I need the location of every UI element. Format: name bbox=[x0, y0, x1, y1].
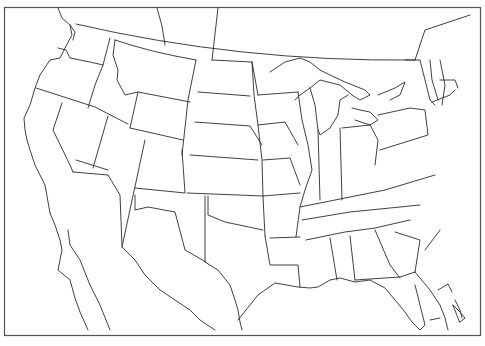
state-borders-central bbox=[258, 92, 312, 287]
west-coast bbox=[24, 8, 75, 213]
state-borders-plains bbox=[135, 60, 265, 262]
outline-map: Blank outline map of the contiguous Unit… bbox=[0, 0, 485, 346]
canada-us-border bbox=[76, 24, 415, 60]
state-borders-west bbox=[36, 8, 218, 247]
mexico-baja bbox=[50, 213, 215, 330]
gulf-coast bbox=[205, 262, 425, 330]
caribbean-islands bbox=[430, 284, 465, 322]
great-lakes bbox=[270, 58, 405, 135]
map-canvas bbox=[0, 0, 485, 346]
map-frame bbox=[5, 8, 481, 336]
